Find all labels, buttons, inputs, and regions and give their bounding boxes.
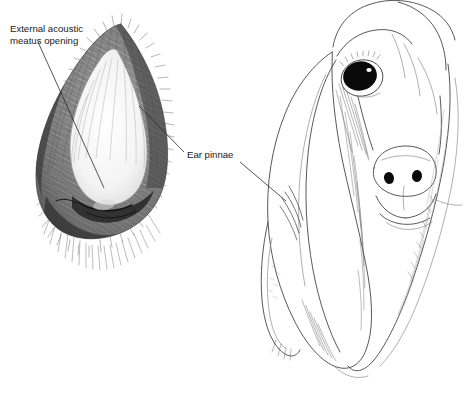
- label-ear-pinnae: Ear pinnae: [187, 149, 233, 160]
- illustration-canvas: External acoustic meatus opening Ear pin…: [0, 0, 467, 394]
- label-external-acoustic-meatus-opening: External acoustic meatus opening: [10, 23, 83, 46]
- label-ear-pinnae-line1: Ear pinnae: [187, 149, 233, 160]
- label-external-acoustic-meatus-line2: meatus opening: [10, 35, 78, 46]
- label-external-acoustic-meatus-line1: External acoustic: [10, 23, 83, 34]
- eye-highlight: [366, 68, 371, 72]
- anatomy-figure: External acoustic meatus opening Ear pin…: [0, 0, 467, 394]
